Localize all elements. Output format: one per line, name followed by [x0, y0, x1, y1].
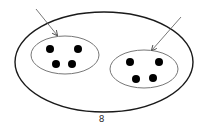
set-diagram: [0, 0, 203, 132]
element-dot: [149, 74, 157, 82]
right-subset-ellipse: [110, 50, 178, 88]
element-dot: [132, 75, 140, 83]
element-dot: [155, 58, 163, 66]
right-group: [110, 17, 181, 88]
left-arrow-icon: [36, 9, 57, 35]
left-subset-ellipse: [31, 36, 99, 74]
element-dot: [68, 60, 76, 68]
element-dot: [46, 45, 54, 53]
outer-set-ellipse: [15, 12, 193, 112]
left-group: [31, 9, 99, 74]
element-dot: [74, 45, 82, 53]
element-dot: [126, 58, 134, 66]
element-dot: [52, 60, 60, 68]
figure-label: 8: [0, 114, 203, 124]
